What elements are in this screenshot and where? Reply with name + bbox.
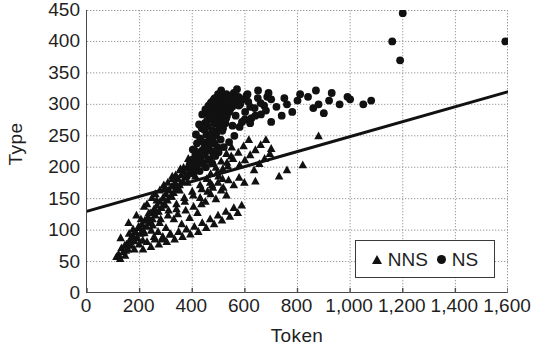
- y-tick-label: 100: [16, 220, 80, 239]
- x-tick-label: 1,600: [481, 296, 533, 315]
- y-tick-label: 450: [16, 0, 80, 19]
- y-tick-label: 150: [16, 189, 80, 208]
- x-tick-label: 1,000: [323, 296, 375, 315]
- circle-icon: [437, 255, 446, 264]
- x-tick-label: 0: [69, 296, 103, 315]
- legend-item-ns: NS: [437, 250, 478, 269]
- y-tick-label: 350: [16, 63, 80, 82]
- y-tick-label: 250: [16, 126, 80, 145]
- triangle-icon: [372, 255, 382, 264]
- chart-figure: Type Token 050100150200250300350400450 0…: [0, 0, 538, 360]
- x-tick-label: 200: [122, 296, 156, 315]
- x-axis-title: Token: [86, 325, 508, 347]
- legend-label-ns: NS: [452, 250, 478, 269]
- y-tick-label: 200: [16, 157, 80, 176]
- y-tick-label: 300: [16, 94, 80, 113]
- x-tick-label: 800: [280, 296, 314, 315]
- chart-legend: NNS NS: [355, 240, 495, 278]
- legend-label-nns: NNS: [388, 250, 428, 269]
- y-tick-label: 400: [16, 31, 80, 50]
- y-tick-label: 50: [16, 252, 80, 271]
- x-tick-label: 1,200: [376, 296, 428, 315]
- x-tick-label: 600: [227, 296, 261, 315]
- x-tick-label: 1,400: [428, 296, 480, 315]
- y-axis-tick-labels: 050100150200250300350400450: [4, 0, 80, 320]
- x-tick-label: 400: [174, 296, 208, 315]
- legend-item-nns: NNS: [372, 250, 428, 269]
